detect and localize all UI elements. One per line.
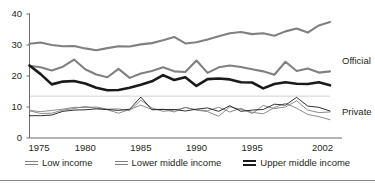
x-axis-tick-label: 1980 bbox=[75, 143, 96, 153]
x-axis-tick-label: 1990 bbox=[186, 143, 207, 153]
x-axis-tick-label: 1995 bbox=[242, 143, 263, 153]
axis-lines bbox=[27, 14, 343, 139]
legend-swatch-icon bbox=[25, 159, 38, 167]
chart-legend: Low incomeLower middle incomeUpper middl… bbox=[0, 158, 375, 168]
y-axis-tick-label: 20 bbox=[11, 71, 22, 80]
legend-swatch-icon bbox=[115, 159, 128, 167]
legend-item-low-income[interactable]: Low income bbox=[25, 158, 93, 168]
x-axis-tick-label: 1975 bbox=[29, 143, 50, 153]
band-label-private: Private bbox=[342, 106, 372, 117]
y-axis-tick-label: 30 bbox=[11, 40, 22, 49]
band-label-official: Official bbox=[342, 55, 371, 66]
x-axis-tick-label: 1985 bbox=[130, 143, 151, 153]
legend-label: Lower middle income bbox=[132, 158, 222, 168]
chart-figure: 010203040 197519801985199019952002 Offic… bbox=[0, 0, 375, 190]
legend-label: Upper middle income bbox=[260, 158, 350, 168]
y-axis-tick-label: 10 bbox=[11, 102, 22, 111]
legend-item-upper-middle-income[interactable]: Upper middle income bbox=[243, 158, 350, 168]
legend-swatch-icon bbox=[243, 159, 256, 167]
y-axis-tick-label: 40 bbox=[11, 9, 22, 18]
legend-item-lower-middle-income[interactable]: Lower middle income bbox=[115, 158, 222, 168]
series-lines bbox=[30, 22, 331, 120]
legend-label: Low income bbox=[42, 158, 93, 168]
y-axis-tick-label: 0 bbox=[17, 133, 22, 142]
x-axis-tick-label: 2002 bbox=[312, 143, 333, 153]
bottom-divider bbox=[0, 180, 375, 181]
